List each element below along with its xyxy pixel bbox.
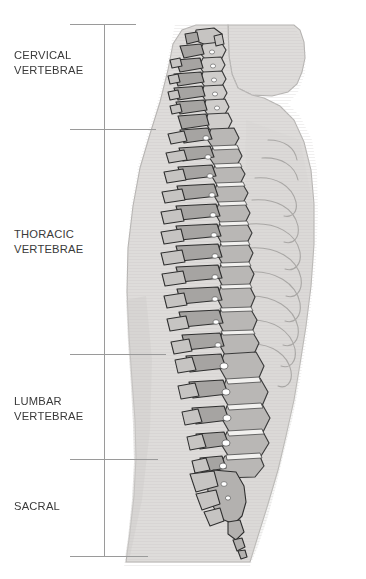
tick-lumbar-end	[70, 459, 158, 460]
spine-anatomy-figure: CERVICAL VERTEBRAE THORACIC VERTEBRAE LU…	[0, 0, 366, 579]
tick-thoracic-end	[70, 354, 166, 355]
label-thoracic-vertebrae: THORACIC VERTEBRAE	[14, 227, 104, 256]
bracket-vertical-rule	[104, 24, 105, 556]
label-cervical-vertebrae: CERVICAL VERTEBRAE	[14, 48, 104, 77]
spine-illustration	[0, 0, 366, 579]
label-lumbar-vertebrae: LUMBAR VERTEBRAE	[14, 394, 104, 423]
tick-cervical-end	[70, 129, 156, 130]
tick-bottom	[70, 556, 148, 557]
tick-top	[70, 24, 136, 25]
label-sacral: SACRAL	[14, 499, 104, 514]
